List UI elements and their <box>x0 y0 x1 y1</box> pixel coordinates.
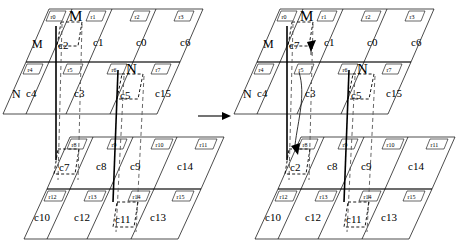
cell-label: c11 <box>115 213 130 225</box>
cell-label: c4 <box>257 87 268 99</box>
cell-label: c9 <box>361 160 372 172</box>
marker-n-side: N <box>243 87 252 101</box>
cell-label: c12 <box>305 211 321 223</box>
cell-label: c14 <box>177 160 193 172</box>
marker-m-top: M <box>300 8 313 24</box>
migration-arrowhead-up <box>307 40 316 52</box>
row-tag: r0 <box>51 14 56 20</box>
figure-svg: r0 r1 r2 r3 r4 r5 r6 r7 r8 r9 r10 r11 <box>0 0 459 242</box>
row-tag: r10 <box>387 142 395 148</box>
transition-arrow <box>198 112 231 120</box>
row-tag: r13 <box>320 194 328 200</box>
right-diagram: r0 r1 r2 r3 r4 r5 r6 r7 r8 r9 r10 r11 r1… <box>234 8 455 239</box>
row-tag: r3 <box>410 14 415 20</box>
row-tag: r8 <box>303 142 308 148</box>
row-tag: r6 <box>343 67 348 73</box>
row-tag: r15 <box>177 194 185 200</box>
row-tag: r10 <box>156 142 164 148</box>
cell-label: c0 <box>367 36 378 48</box>
cell-label: c1 <box>93 36 103 48</box>
row-tag: r4 <box>259 67 264 73</box>
row-tag: r0 <box>282 14 287 20</box>
row-tag: r12 <box>49 194 57 200</box>
row-tag: r2 <box>366 14 371 20</box>
cell-label: c3 <box>305 87 316 99</box>
right-guide-solid-b <box>344 70 349 202</box>
cell-label: c14 <box>408 160 424 172</box>
marker-m-top: M <box>69 8 82 24</box>
cell-label: c8 <box>327 160 338 172</box>
cell-label: c4 <box>26 87 37 99</box>
marker-m-side: M <box>32 37 43 51</box>
cell-label: c9 <box>130 160 141 172</box>
row-tag: r3 <box>179 14 184 20</box>
cell-label: c0 <box>136 36 147 48</box>
cell-label: c7 <box>289 39 300 51</box>
migration-curve-down <box>295 72 302 145</box>
cell-label: c5 <box>351 89 362 101</box>
cell-label: c2 <box>58 39 68 51</box>
row-tag: r11 <box>200 142 208 148</box>
marker-m-side: M <box>263 37 274 51</box>
marker-n-top: N <box>357 61 368 77</box>
row-tag: r15 <box>408 194 416 200</box>
cell-label: c5 <box>120 89 131 101</box>
cell-label: c3 <box>74 87 85 99</box>
figure-container: r0 r1 r2 r3 r4 r5 r6 r7 r8 r9 r10 r11 <box>0 0 459 242</box>
row-tag: r14 <box>133 194 141 200</box>
row-tag: r13 <box>89 194 97 200</box>
marker-n-top: N <box>126 61 137 77</box>
cell-label: c11 <box>346 213 361 225</box>
cell-label: c12 <box>74 211 90 223</box>
migration-arrowhead-down <box>291 143 300 155</box>
row-tag: r8 <box>72 142 77 148</box>
row-tag: r14 <box>364 194 372 200</box>
cell-label: c2 <box>290 161 300 173</box>
cell-label: c15 <box>155 87 171 99</box>
row-tag: r11 <box>431 142 439 148</box>
row-tag: r7 <box>156 67 161 73</box>
cell-label: c13 <box>381 211 397 223</box>
cell-label: c6 <box>411 36 422 48</box>
cell-label: c7 <box>59 161 70 173</box>
left-guide-solid-b <box>113 70 118 202</box>
row-tag: r6 <box>112 67 117 73</box>
cell-label: c8 <box>96 160 107 172</box>
cell-label: c1 <box>324 36 334 48</box>
left-guide-dash-b <box>78 24 82 180</box>
cell-label: c6 <box>180 36 191 48</box>
row-tag: r7 <box>387 67 392 73</box>
row-tag: r1 <box>91 14 96 20</box>
left-diagram: r0 r1 r2 r3 r4 r5 r6 r7 r8 r9 r10 r11 <box>3 8 224 239</box>
cell-label: c13 <box>150 211 166 223</box>
row-tag: r2 <box>135 14 140 20</box>
marker-n-side: N <box>12 87 21 101</box>
row-tag: r5 <box>68 67 73 73</box>
cell-label: c10 <box>265 211 281 223</box>
row-tag: r1 <box>322 14 327 20</box>
row-tag: r12 <box>280 194 288 200</box>
cell-label: c10 <box>34 211 50 223</box>
row-tag: r4 <box>28 67 33 73</box>
cell-label: c15 <box>386 87 402 99</box>
